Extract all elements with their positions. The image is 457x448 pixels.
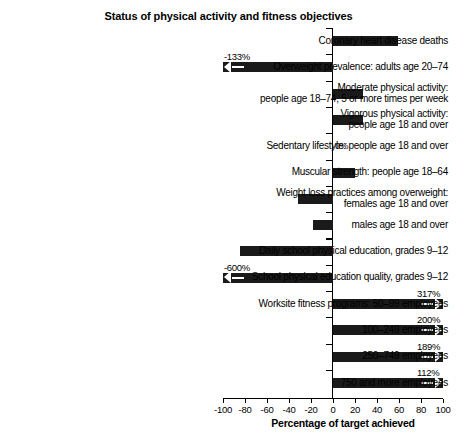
y-tick [326,160,332,161]
y-tick [326,212,332,213]
y-tick [326,28,332,29]
row-label: 250–749 employees [132,350,457,362]
x-tick [245,399,246,403]
x-tick [399,399,400,403]
x-tick [289,399,290,403]
x-tick [377,399,378,403]
chart-figure: Status of physical activity and fitness … [0,0,457,448]
y-tick [326,344,332,345]
y-tick [326,370,332,371]
row-label: Coronary heart disease deaths [132,35,457,47]
y-tick [326,54,332,55]
y-tick [326,265,332,266]
row-label: Worksite fitness programs: 50–99 employe… [132,298,457,310]
row-label: School physical education quality, grade… [132,271,457,283]
x-tick-label: 100 [428,404,457,415]
x-axis-title: Percentage of target achieved [223,417,457,429]
row-label: males age 18 and over [132,219,457,231]
y-tick [326,291,332,292]
x-tick [267,399,268,403]
row-label: Moderate physical activity: people age 1… [132,82,457,105]
row-label: 750 and more employees [132,377,457,389]
x-tick [443,399,444,403]
row-label: Sedentary lifestyle: people age 18 and o… [132,140,457,152]
y-tick [326,317,332,318]
x-tick [333,399,334,403]
row-label: Daily school physical education, grades … [132,245,457,257]
row-label: Weight loss practices among overweight: … [132,187,457,210]
row-label: 100–249 employees [132,324,457,336]
row-label: Overweight prevalence: adults age 20–74 [132,61,457,73]
x-tick [223,399,224,403]
x-tick [311,399,312,403]
x-tick [355,399,356,403]
plot-area: -133%0%-600%317%200%189%112% -100-80-60-… [0,0,457,448]
y-tick [326,238,332,239]
row-label: Muscular strength: people age 18–64 [132,166,457,178]
y-tick [326,133,332,134]
x-tick [421,399,422,403]
row-label: Vigorous physical activity: people age 1… [132,108,457,131]
